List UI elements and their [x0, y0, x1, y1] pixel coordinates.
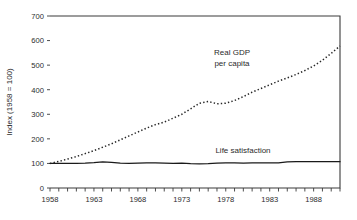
- chart-figure: 0100200300400500600700 19581963196819731…: [0, 0, 357, 220]
- annotation-real-gdp-line1: Real GDP: [214, 48, 250, 57]
- y-tick-label: 400: [31, 86, 44, 95]
- y-tick-label: 700: [31, 12, 44, 21]
- gdp-life-satisfaction-line-chart: 0100200300400500600700 19581963196819731…: [0, 0, 357, 220]
- x-tick-label: 1958: [42, 195, 59, 204]
- x-tick-label: 1978: [217, 195, 234, 204]
- y-tick-label: 300: [31, 110, 44, 119]
- x-tick-label: 1963: [85, 195, 102, 204]
- y-axis-title: Index (1958 = 100): [5, 68, 14, 136]
- y-tick-label: 200: [31, 135, 44, 144]
- annotation-real-gdp-line2: per capita: [214, 59, 250, 68]
- x-tick-label: 1988: [305, 195, 322, 204]
- y-tick-label: 0: [40, 184, 44, 193]
- y-tick-label: 600: [31, 36, 44, 45]
- annotation-life-satisfaction: Life satisfaction: [215, 146, 270, 155]
- x-tick-label: 1968: [129, 195, 146, 204]
- x-tick-label: 1983: [261, 195, 278, 204]
- y-tick-label: 100: [31, 159, 44, 168]
- x-tick-label: 1973: [173, 195, 190, 204]
- y-tick-label: 500: [31, 61, 44, 70]
- chart-background: [0, 0, 357, 220]
